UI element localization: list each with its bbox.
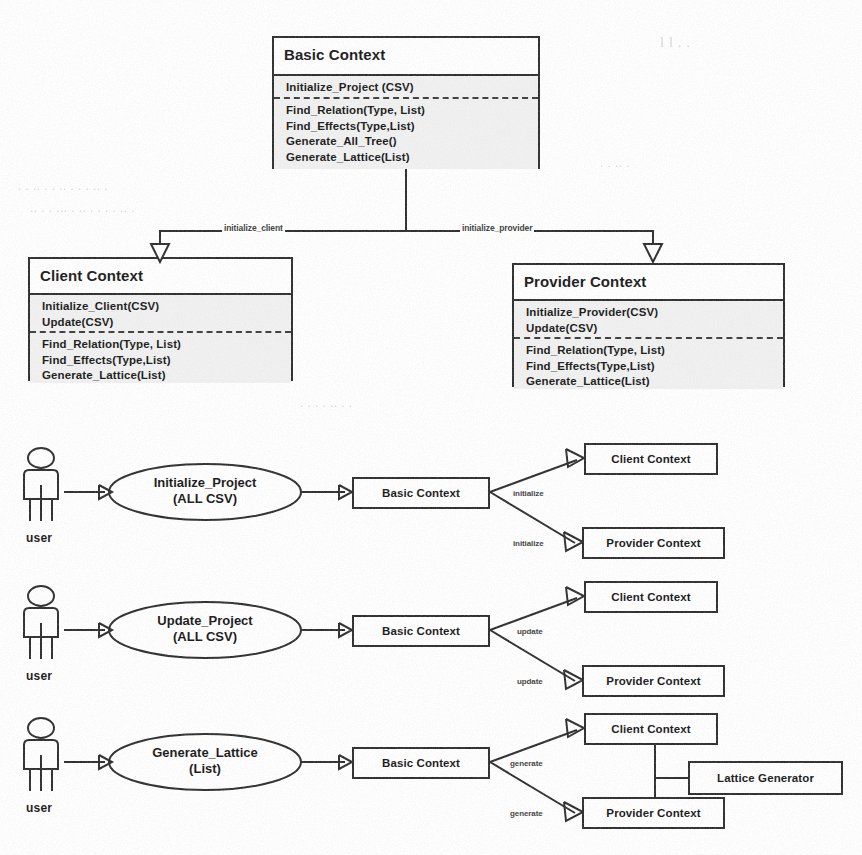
actor-label-user: user [26, 801, 52, 815]
target-box-provider-context[interactable]: Provider Context [582, 797, 725, 829]
target-box-client-context[interactable]: Client Context [584, 713, 718, 745]
arrowhead [566, 449, 584, 467]
scan-ghost-text: . . . . .. . . [300, 395, 353, 411]
edge-label-initialize-top: initialize [513, 489, 544, 498]
class-title-bar: Provider Context [514, 265, 783, 301]
use-case-line-2: (List) [135, 761, 275, 777]
actor-head [28, 586, 54, 606]
inheritance-label-provider: initialize_provider [460, 223, 534, 233]
arrowhead [566, 719, 584, 737]
actor-label-user: user [26, 669, 52, 683]
use-case-line-1: Initialize_Project [135, 475, 275, 491]
use-case-line-2: (ALL CSV) [135, 629, 275, 645]
edge-label-generate-top: generate [510, 759, 543, 768]
controller-box-basic-context[interactable]: Basic Context [352, 747, 490, 779]
class-box-provider-context[interactable]: Provider Context Initialize_Provider(CSV… [512, 263, 785, 387]
class-member: Find_Effects(Type,List) [526, 359, 783, 375]
use-case-line-1: Generate_Lattice [135, 745, 275, 761]
class-member: Generate_Lattice(List) [526, 374, 783, 390]
target-box-provider-context[interactable]: Provider Context [582, 527, 725, 559]
controller-box-basic-context[interactable]: Basic Context [352, 477, 490, 509]
actor-label-user: user [26, 531, 52, 545]
target-box-client-context[interactable]: Client Context [584, 443, 718, 475]
target-box-provider-context[interactable]: Provider Context [582, 665, 725, 697]
use-case-line-2: (ALL CSV) [135, 491, 275, 507]
edge-label-initialize-bottom: initialize [513, 539, 544, 548]
class-member: Update(CSV) [526, 321, 783, 337]
controller-box-basic-context[interactable]: Basic Context [352, 615, 490, 647]
class-compartment-operations: Find_Relation(Type, List) Find_Effects(T… [514, 337, 783, 389]
edge-label-update-bottom: update [517, 677, 543, 686]
class-member: Find_Relation(Type, List) [42, 337, 291, 353]
generalization-arrowheads [0, 0, 862, 270]
helper-box-lattice-generator[interactable]: Lattice Generator [688, 761, 843, 795]
inheritance-label-client: initialize_client [222, 223, 285, 233]
arrowhead [566, 587, 584, 605]
use-case-line-1: Update_Project [135, 613, 275, 629]
class-box-client-context[interactable]: Client Context Initialize_Client(CSV) Up… [28, 257, 293, 381]
use-case-label: Initialize_Project (ALL CSV) [135, 475, 275, 507]
class-compartment-operations: Find_Relation(Type, List) Find_Effects(T… [30, 331, 291, 383]
class-compartment-attributes: Initialize_Client(CSV) Update(CSV) [30, 295, 291, 331]
target-box-client-context[interactable]: Client Context [584, 581, 718, 613]
use-case-label: Generate_Lattice (List) [135, 745, 275, 777]
edge-label-update-top: update [517, 627, 543, 636]
class-member: Initialize_Provider(CSV) [526, 305, 783, 321]
class-member: Initialize_Client(CSV) [42, 299, 291, 315]
class-compartment-attributes: Initialize_Provider(CSV) Update(CSV) [514, 301, 783, 337]
actor-head [28, 718, 54, 738]
actor-head [28, 448, 54, 468]
use-case-label: Update_Project (ALL CSV) [135, 613, 275, 645]
edge-label-generate-bottom: generate [510, 809, 543, 818]
class-member: Update(CSV) [42, 315, 291, 331]
class-member: Generate_Lattice(List) [42, 368, 291, 384]
class-member: Find_Effects(Type,List) [42, 353, 291, 369]
class-member: Find_Relation(Type, List) [526, 343, 783, 359]
